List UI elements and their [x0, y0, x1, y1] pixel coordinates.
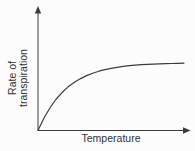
- plot-area: [0, 0, 195, 151]
- y-axis-label: Rate of transpiration: [7, 49, 29, 107]
- x-axis-arrow-icon: [183, 127, 191, 133]
- y-axis-arrow-icon: [35, 6, 41, 14]
- y-axis-label-line-2: transpiration: [18, 49, 29, 107]
- x-axis-label: Temperature: [82, 132, 141, 145]
- transpiration-vs-temperature-figure: Rate of transpiration Temperature: [0, 0, 195, 151]
- transpiration-curve: [38, 63, 184, 130]
